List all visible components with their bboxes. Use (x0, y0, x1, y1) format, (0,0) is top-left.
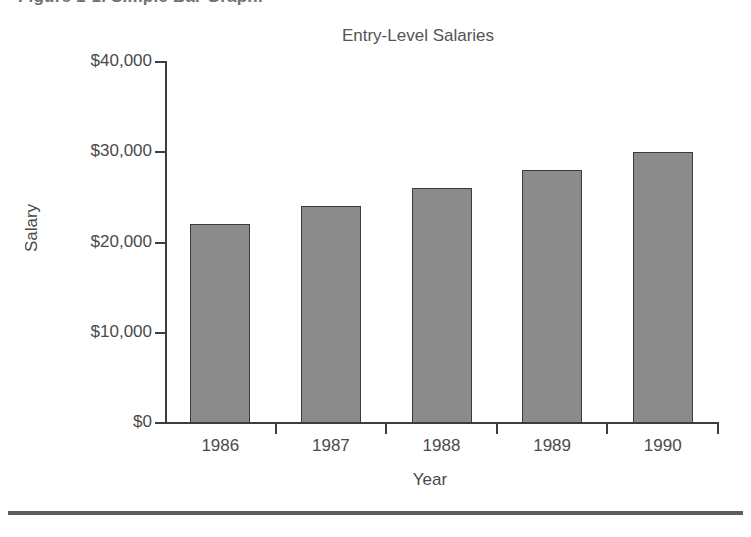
bar (633, 152, 693, 423)
x-axis-title: Year (380, 470, 480, 490)
y-axis-title: Salary (22, 183, 42, 273)
y-axis-tick-label: $10,000 (2, 322, 152, 342)
bar (301, 206, 361, 423)
bottom-rule (8, 511, 743, 515)
x-axis-tick-label: 1990 (608, 436, 718, 456)
x-axis-end-tick (717, 423, 719, 434)
y-axis-tick (155, 332, 167, 334)
x-axis-tick-label: 1987 (276, 436, 386, 456)
bar (412, 188, 472, 423)
y-axis-tick (155, 151, 167, 153)
y-axis-tick (155, 61, 167, 63)
y-axis-tick (155, 422, 167, 424)
y-axis-tick-label: $40,000 (2, 51, 152, 71)
bar (190, 224, 250, 423)
y-axis-tick (155, 242, 167, 244)
x-axis-tick-label: 1988 (387, 436, 497, 456)
x-axis-tick (275, 423, 277, 434)
y-axis-tick-label: $30,000 (2, 141, 152, 161)
bar (522, 170, 582, 423)
x-axis-tick-label: 1986 (165, 436, 275, 456)
x-axis-tick (606, 423, 608, 434)
x-axis-tick (496, 423, 498, 434)
y-axis-tick-label: $0 (2, 412, 152, 432)
x-axis-tick-label: 1989 (497, 436, 607, 456)
x-axis-tick (385, 423, 387, 434)
